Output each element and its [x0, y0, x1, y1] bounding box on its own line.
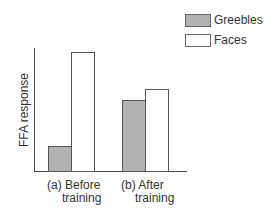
bar-greebles-before	[48, 146, 72, 172]
legend-swatch-faces	[185, 34, 211, 47]
legend-label-greebles: Greebles	[214, 14, 263, 27]
y-axis	[34, 48, 35, 171]
y-axis-label: FFA response	[17, 70, 31, 150]
x-label-after-line2: training	[135, 192, 174, 205]
bar-faces-after	[145, 89, 169, 172]
x-label-before-line2: training	[62, 192, 101, 205]
legend-swatch-greebles	[185, 14, 211, 27]
bar-faces-before	[71, 52, 95, 172]
legend-label-faces: Faces	[214, 34, 247, 47]
bar-greebles-after	[122, 100, 146, 172]
